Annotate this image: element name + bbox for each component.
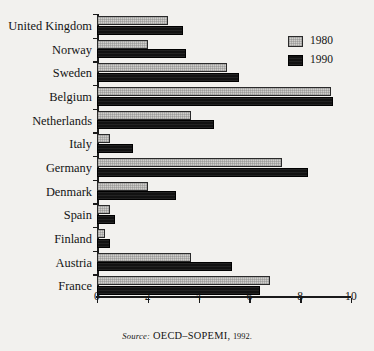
- bar-italy-1990: [97, 144, 133, 153]
- bar-denmark-1980: [97, 182, 148, 191]
- x-tick-label-4: 4: [196, 290, 202, 302]
- bar-united-kingdom-1990: [97, 26, 183, 35]
- source-year: 1992.: [233, 332, 252, 341]
- bar-netherlands-1980: [97, 111, 191, 120]
- chart-legend: 1980 1990: [288, 33, 333, 71]
- legend-item-1990: 1990: [288, 52, 333, 68]
- bar-france-1990: [97, 286, 260, 295]
- category-label-sweden: Sweden: [0, 67, 92, 79]
- bar-belgium-1990: [97, 97, 333, 106]
- x-tick-label-8: 8: [297, 290, 303, 302]
- category-label-austria: Austria: [0, 257, 92, 269]
- category-label-spain: Spain: [0, 209, 92, 221]
- bar-spain-1980: [97, 205, 110, 214]
- legend-item-1980: 1980: [288, 33, 333, 49]
- bar-norway-1990: [97, 49, 186, 58]
- category-label-germany: Germany: [0, 162, 92, 174]
- x-tick-label-2: 2: [145, 290, 151, 302]
- x-axis-line: [96, 296, 351, 298]
- source-text: OECD–SOPEMI,: [153, 330, 230, 341]
- legend-label-1990: 1990: [310, 54, 333, 66]
- bar-france-1980: [97, 276, 270, 285]
- category-label-italy: Italy: [0, 138, 92, 150]
- bar-sweden-1990: [97, 73, 239, 82]
- bar-austria-1990: [97, 262, 232, 271]
- bar-germany-1980: [97, 158, 282, 167]
- category-label-united-kingdom: United Kingdom: [0, 20, 92, 32]
- source-note: Source:OECD–SOPEMI, 1992.: [0, 330, 374, 341]
- x-tick-label-0: 0: [94, 290, 100, 302]
- bar-finland-1990: [97, 239, 110, 248]
- category-label-norway: Norway: [0, 44, 92, 56]
- category-label-france: France: [0, 280, 92, 292]
- source-label: Source:: [122, 331, 150, 341]
- category-label-netherlands: Netherlands: [0, 115, 92, 127]
- x-tick-label-10: 10: [345, 290, 357, 302]
- bar-belgium-1980: [97, 87, 331, 96]
- bar-austria-1980: [97, 253, 191, 262]
- bar-chart: United KingdomNorwaySwedenBelgiumNetherl…: [0, 0, 374, 351]
- bar-united-kingdom-1980: [97, 16, 168, 25]
- bar-spain-1990: [97, 215, 115, 224]
- bar-denmark-1990: [97, 191, 176, 200]
- bar-italy-1980: [97, 134, 110, 143]
- category-label-finland: Finland: [0, 233, 92, 245]
- legend-label-1980: 1980: [310, 35, 333, 47]
- bar-netherlands-1990: [97, 120, 214, 129]
- legend-swatch-1980: [288, 36, 303, 47]
- legend-swatch-1990: [288, 55, 303, 66]
- category-label-belgium: Belgium: [0, 91, 92, 103]
- x-tick-label-6: 6: [246, 290, 252, 302]
- bar-finland-1980: [97, 229, 105, 238]
- bar-sweden-1980: [97, 63, 227, 72]
- bar-germany-1990: [97, 168, 308, 177]
- bar-norway-1980: [97, 40, 148, 49]
- category-label-denmark: Denmark: [0, 186, 92, 198]
